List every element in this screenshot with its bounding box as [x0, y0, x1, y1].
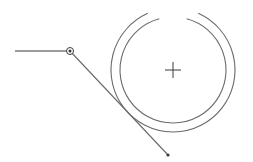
drawing-canvas [0, 0, 253, 162]
end-dot-icon[interactable] [166, 153, 169, 156]
leader-line[interactable] [15, 51, 168, 155]
elbow-handle[interactable] [67, 48, 74, 55]
leader-diagonal-segment[interactable] [70, 51, 168, 155]
handle-dot-icon [69, 50, 72, 53]
leader-end-point[interactable] [166, 153, 169, 156]
center-crosshair-icon [165, 62, 181, 78]
